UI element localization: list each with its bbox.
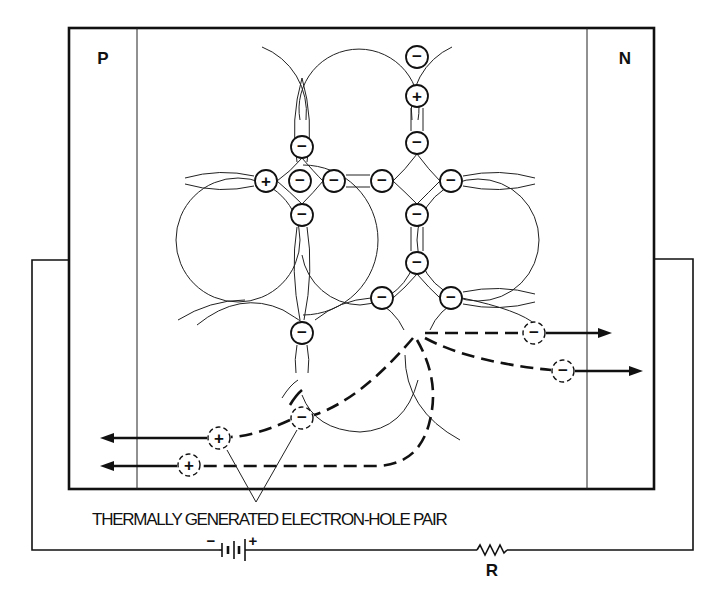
arrow-left-icon [100, 433, 114, 443]
svg-text:−: − [529, 323, 539, 342]
free-carriers: − − − + + [178, 322, 574, 476]
svg-text:−: − [412, 47, 422, 66]
electron-icon: − [406, 132, 428, 154]
electron-icon: − [291, 322, 313, 344]
svg-text:−: − [412, 253, 422, 272]
hole-icon: + [255, 170, 277, 192]
svg-text:−: − [446, 288, 456, 307]
svg-text:−: − [412, 205, 422, 224]
electron-icon: − [440, 287, 462, 309]
svg-text:−: − [297, 323, 307, 342]
resistor-icon [477, 545, 507, 555]
svg-text:−: − [297, 205, 307, 224]
battery-minus-label: − [207, 532, 216, 549]
arrow-right-icon [598, 328, 612, 338]
electron-icon: − [406, 204, 428, 226]
svg-text:−: − [446, 171, 456, 190]
svg-text:+: + [184, 456, 194, 475]
svg-text:−: − [295, 171, 305, 190]
svg-text:−: − [297, 137, 307, 156]
free-hole-icon: + [208, 427, 230, 449]
electron-icon: − [406, 46, 428, 68]
svg-text:+: + [412, 87, 422, 106]
battery-icon [219, 539, 245, 561]
electron-icon: − [440, 170, 462, 192]
svg-text:−: − [558, 361, 568, 380]
free-electron-icon: − [552, 360, 574, 382]
caption-leader-line [227, 450, 256, 502]
n-region-label: N [619, 49, 631, 68]
svg-text:−: − [377, 288, 387, 307]
svg-text:−: − [377, 171, 387, 190]
pn-junction-diagram: P N − + R [0, 0, 719, 601]
external-circuit: − + R [32, 259, 693, 580]
svg-text:+: + [214, 429, 224, 448]
svg-text:−: − [412, 133, 422, 152]
hole-icon: + [406, 85, 428, 107]
p-region-label: P [97, 49, 108, 68]
arrow-right-icon [629, 366, 643, 376]
electron-icon: − [323, 170, 345, 192]
svg-text:−: − [297, 408, 307, 427]
arrow-left-icon [100, 461, 114, 471]
electron-icon: − [291, 204, 313, 226]
crystal-lattice [176, 47, 539, 440]
free-electron-icon: − [523, 322, 545, 344]
svg-text:−: − [329, 171, 339, 190]
carrier-paths [100, 328, 643, 471]
electron-icon: − [289, 170, 311, 192]
caption-text: THERMALLY GENERATED ELECTRON-HOLE PAIR [92, 510, 448, 529]
battery-plus-label: + [249, 532, 258, 549]
electron-icon: − [406, 252, 428, 274]
free-electron-icon: − [291, 407, 313, 429]
resistor-label: R [486, 561, 498, 580]
free-hole-icon: + [178, 454, 200, 476]
crystal-block [69, 28, 654, 489]
electron-icon: − [291, 136, 313, 158]
electron-icon: − [371, 170, 393, 192]
electron-icon: − [371, 287, 393, 309]
svg-text:+: + [261, 172, 271, 191]
